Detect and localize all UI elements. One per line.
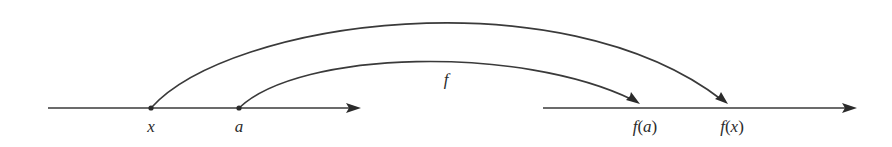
arc-x-to-fx — [151, 23, 722, 108]
domain-axis — [48, 103, 361, 113]
point-a-dot — [236, 105, 241, 110]
arc-a-arrowhead-icon — [626, 92, 640, 104]
arc-x-arrowhead-icon — [715, 92, 728, 104]
label-x: x — [146, 117, 155, 136]
point-x-dot — [148, 105, 153, 110]
arc-a-to-fa — [239, 61, 633, 108]
arrow-x-to-fx — [151, 23, 728, 108]
codomain-axis — [543, 103, 857, 113]
label-f-of-x: f(x) — [720, 117, 744, 136]
label-f-of-a: f(a) — [633, 117, 658, 136]
label-a: a — [235, 117, 244, 136]
arrow-a-to-fa — [239, 61, 640, 108]
label-mapping-f: f — [444, 70, 451, 89]
function-mapping-diagram: x a f f(a) f(x) — [0, 0, 892, 147]
